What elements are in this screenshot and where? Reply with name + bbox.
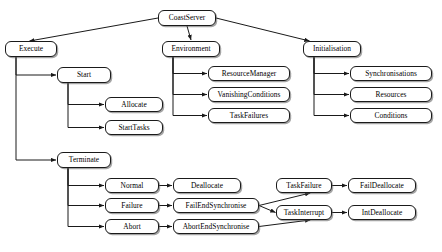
node-label: IntDeallocate [360, 209, 404, 216]
node-label: Failure [119, 202, 144, 209]
node-label: FailEndSynchronise [184, 202, 249, 209]
node-failure[interactable]: Failure [105, 198, 159, 213]
node-abortendsynchronise[interactable]: AbortEndSynchronise [173, 219, 259, 234]
edge-initialisation-to-synchronisations [314, 57, 349, 74]
node-label: FailDeallocate [358, 182, 406, 189]
node-label: TaskFailures [228, 112, 270, 119]
node-label: Allocate [119, 101, 148, 108]
node-label: Environment [169, 45, 212, 52]
node-intdeallocate[interactable]: IntDeallocate [348, 205, 416, 220]
node-label: CoastServer [167, 14, 208, 21]
node-taskfailures[interactable]: TaskFailures [208, 108, 290, 123]
node-label: Deallocate [189, 182, 225, 189]
node-label: TaskInterrupt [282, 209, 326, 216]
node-label: Resources [374, 91, 409, 98]
node-faildeallocate[interactable]: FailDeallocate [348, 178, 416, 193]
node-start[interactable]: Start [57, 67, 111, 83]
node-taskfailure[interactable]: TaskFailure [276, 178, 332, 193]
node-label: TaskFailure [284, 182, 323, 189]
node-label: Synchronisations [363, 70, 419, 77]
node-deallocate[interactable]: Deallocate [173, 178, 241, 193]
edge-execute-to-start [16, 57, 56, 75]
node-terminate[interactable]: Terminate [57, 152, 111, 168]
node-label: Conditions [373, 112, 410, 119]
node-allocate[interactable]: Allocate [105, 97, 163, 112]
edge-initialisation-to-conditions [314, 57, 349, 116]
node-resources[interactable]: Resources [350, 87, 432, 102]
node-label: Initialisation [311, 45, 353, 52]
edge-terminate-to-failure [68, 168, 104, 206]
node-label: ResourceManager [220, 70, 279, 77]
node-environment[interactable]: Environment [162, 41, 220, 57]
edge-environment-to-resourcemanager [173, 57, 207, 74]
node-label: Abort [121, 223, 143, 230]
edge-coastserver-to-initialisation [216, 18, 310, 41]
node-starttasks[interactable]: StartTasks [105, 120, 163, 135]
node-normal[interactable]: Normal [105, 178, 159, 193]
node-conditions[interactable]: Conditions [350, 108, 432, 123]
node-label: StartTasks [116, 124, 151, 131]
node-synchronisations[interactable]: Synchronisations [350, 66, 432, 81]
edge-coastserver-to-environment [187, 26, 191, 40]
edge-failendsynchronise-to-taskfailure [259, 193, 310, 206]
node-execute[interactable]: Execute [5, 41, 57, 57]
node-label: Execute [17, 45, 45, 52]
node-label: Start [75, 71, 93, 78]
edge-environment-to-taskfailures [173, 57, 207, 116]
diagram-canvas: CoastServerExecuteEnvironmentInitialisat… [0, 0, 442, 252]
node-coastserver[interactable]: CoastServer [158, 10, 216, 26]
node-label: Terminate [67, 156, 101, 163]
edge-abortendsynchronise-to-taskinterrupt [259, 220, 310, 227]
node-initialisation[interactable]: Initialisation [303, 41, 361, 57]
edge-coastserver-to-execute [30, 18, 159, 41]
node-resourcemanager[interactable]: ResourceManager [208, 66, 290, 81]
edge-initialisation-to-resources [314, 57, 349, 95]
edge-start-to-starttasks [68, 83, 104, 128]
node-failendsynchronise[interactable]: FailEndSynchronise [173, 198, 259, 213]
node-label: VanishingConditions [216, 91, 283, 98]
node-taskinterrupt[interactable]: TaskInterrupt [276, 205, 332, 220]
edge-environment-to-vanishingconditions [173, 57, 207, 95]
node-vanishingconditions[interactable]: VanishingConditions [208, 87, 290, 102]
node-abort[interactable]: Abort [105, 219, 159, 234]
edge-terminate-to-normal [68, 168, 104, 186]
edge-failendsynchronise-to-taskinterrupt [259, 206, 276, 213]
node-label: AbortEndSynchronise [181, 223, 252, 230]
edge-start-to-allocate [68, 83, 104, 105]
edge-execute-to-terminate [16, 57, 56, 160]
edge-terminate-to-abort [68, 168, 104, 227]
node-label: Normal [119, 182, 146, 189]
